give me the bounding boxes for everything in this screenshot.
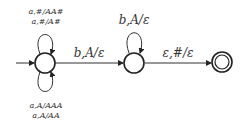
label-q0-top-2: a,#/A# (31, 17, 60, 26)
label-q0-bottom-2: a,A/AA (32, 111, 60, 120)
label-q0-bottom-1: a,A/AAA (29, 101, 62, 110)
label-q0-q1: b,A/ε (74, 46, 105, 60)
label-q0-top-1: a,#/AA# (29, 7, 64, 16)
q1-loop (127, 33, 142, 53)
label-q1-q2: ε,#/ε (163, 46, 194, 60)
label-q1-loop: b,A/ε (119, 13, 150, 27)
q0-top-loop (38, 35, 53, 55)
state-q0 (35, 53, 55, 73)
q0-bottom-loop (38, 72, 53, 92)
pda-diagram: a,#/AA# a,#/A# a,A/AAA a,A/AA b,A/ε b,A/… (0, 0, 244, 124)
state-q2-inner-ring (215, 55, 229, 69)
state-q1 (124, 53, 144, 73)
